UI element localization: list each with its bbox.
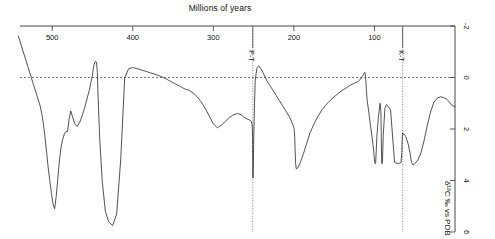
y-tick-label: 2 <box>462 127 471 131</box>
x-tick-label: 500 <box>46 33 59 42</box>
y-tick-label: 4 <box>462 178 471 182</box>
y-axis-title: δ¹³C ‰ vs PDB <box>443 181 452 236</box>
y-tick-label: 6 <box>462 230 471 234</box>
event-label-k-t-boundary: K-T <box>398 50 405 62</box>
y-tick-label: -2 <box>462 23 471 30</box>
data-line-delta-13C-carbonate <box>18 36 455 225</box>
carbon-isotope-chart: Millions of years 500400300200100-20246δ… <box>0 0 495 239</box>
x-tick-label: 400 <box>127 33 140 42</box>
x-tick-label: 200 <box>288 33 301 42</box>
x-tick-label: 300 <box>207 33 220 42</box>
x-tick-label: 100 <box>368 33 381 42</box>
y-tick-label: 0 <box>462 75 471 79</box>
chart-plot-area: 500400300200100-20246δ¹³C ‰ vs PDBP-TK-T <box>0 0 495 239</box>
event-label-p-t-boundary: P-T <box>248 50 255 62</box>
